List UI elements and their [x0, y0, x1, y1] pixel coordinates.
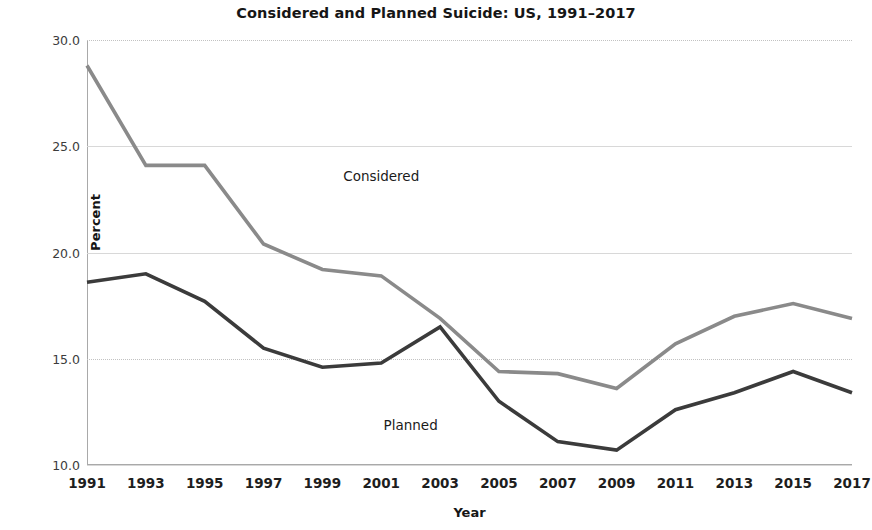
chart-figure: Considered and Planned Suicide: US, 1991… [0, 0, 872, 530]
series-line-considered [87, 66, 852, 389]
series-label-considered: Considered [343, 168, 419, 184]
gridline [87, 465, 852, 466]
y-axis-title: Percent [88, 163, 103, 283]
x-axis-tick: 1991 [68, 475, 106, 491]
x-axis-tick: 1999 [304, 475, 342, 491]
x-axis-tick: 1997 [245, 475, 283, 491]
x-axis-title: Year [87, 505, 852, 520]
series-lines [87, 40, 852, 465]
series-label-planned: Planned [384, 417, 438, 433]
y-axis-tick: 30.0 [52, 33, 80, 48]
x-axis-tick: 2009 [598, 475, 636, 491]
y-axis-tick: 20.0 [52, 245, 80, 260]
x-axis-tick: 1993 [127, 475, 165, 491]
x-axis-tick: 2005 [480, 475, 518, 491]
chart-title: Considered and Planned Suicide: US, 1991… [0, 5, 872, 21]
x-axis-tick: 2017 [833, 475, 871, 491]
x-axis-tick: 2013 [716, 475, 754, 491]
y-axis-tick: 25.0 [52, 139, 80, 154]
y-axis-tick: 15.0 [52, 351, 80, 366]
plot-area: 30.025.020.015.010.0 ConsideredPlanned 1… [87, 40, 852, 465]
x-axis-tick: 2015 [774, 475, 812, 491]
x-axis-tick: 2001 [362, 475, 400, 491]
series-line-planned [87, 274, 852, 450]
y-axis-tick: 10.0 [52, 458, 80, 473]
x-axis-tick: 2003 [421, 475, 459, 491]
x-axis-tick: 2007 [539, 475, 577, 491]
x-axis-tick: 2011 [657, 475, 695, 491]
x-axis-tick: 1995 [186, 475, 224, 491]
